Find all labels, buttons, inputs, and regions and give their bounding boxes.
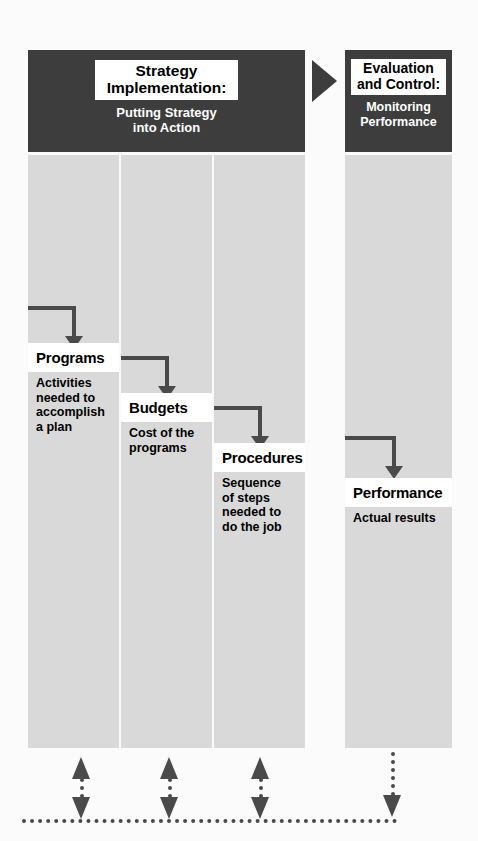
stage-label-programs-text: Programs xyxy=(36,349,104,366)
banner-main-title-line2: Implementation: xyxy=(107,79,227,96)
dotted-feedback-line xyxy=(22,819,397,823)
desc-line: needed to xyxy=(36,391,116,406)
stage-description-procedures: Sequence of steps needed to do the job xyxy=(214,476,305,534)
banner-main-title: Strategy Implementation: xyxy=(95,60,239,100)
banner-main-subtitle-line2: into Action xyxy=(116,121,216,136)
desc-line: Activities xyxy=(36,376,116,391)
desc-line: Sequence xyxy=(222,476,302,491)
banner-right-title-line1: Evaluation xyxy=(357,61,440,77)
stage-label-programs: Programs xyxy=(28,343,119,372)
banner-strategy-implementation: Strategy Implementation: Putting Strateg… xyxy=(28,50,305,152)
stage-label-budgets-text: Budgets xyxy=(129,399,188,416)
stage-label-budgets: Budgets xyxy=(121,393,212,422)
stage-label-performance-text: Performance xyxy=(353,484,443,501)
desc-line: Cost of the xyxy=(129,426,209,441)
column-performance xyxy=(345,155,452,748)
stage-label-performance: Performance xyxy=(345,478,452,507)
stage-label-procedures: Procedures xyxy=(214,443,305,472)
desc-line: programs xyxy=(129,441,209,456)
banner-main-title-line1: Strategy xyxy=(107,62,227,79)
desc-line: do the job xyxy=(222,520,302,535)
banner-main-subtitle-line1: Putting Strategy xyxy=(116,106,216,121)
desc-line: needed to xyxy=(222,505,302,520)
banner-right-title: Evaluation and Control: xyxy=(351,59,446,95)
right-triangle-arrow-icon xyxy=(312,60,337,102)
desc-line: of steps xyxy=(222,491,302,506)
banner-evaluation-and-control: Evaluation and Control: Monitoring Perfo… xyxy=(345,50,452,152)
banner-right-title-line2: and Control: xyxy=(357,77,440,93)
desc-line: a plan xyxy=(36,420,116,435)
banner-right-subtitle-line2: Performance xyxy=(360,115,436,129)
banner-right-subtitle: Monitoring Performance xyxy=(360,100,436,129)
stage-label-procedures-text: Procedures xyxy=(222,449,303,466)
desc-line: accomplish xyxy=(36,405,116,420)
diagram-canvas: Strategy Implementation: Putting Strateg… xyxy=(0,0,478,841)
column-programs xyxy=(28,155,119,748)
stage-description-programs: Activities needed to accomplish a plan xyxy=(28,376,119,434)
banner-main-subtitle: Putting Strategy into Action xyxy=(116,106,216,136)
stage-description-budgets: Cost of the programs xyxy=(121,426,212,455)
banner-right-subtitle-line1: Monitoring xyxy=(360,100,436,114)
desc-line: Actual results xyxy=(353,511,449,526)
stage-description-performance: Actual results xyxy=(345,511,452,526)
